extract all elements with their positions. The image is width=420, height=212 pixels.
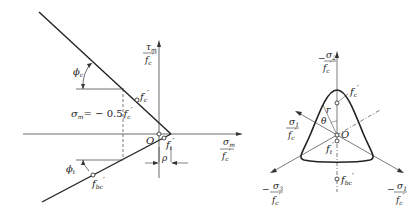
point-fc <box>335 101 339 105</box>
sigma1-neg-axis <box>297 112 337 135</box>
svg-text:fc′: fc′ <box>271 191 281 206</box>
svg-text:−: − <box>262 184 270 194</box>
ft-label: ft′ <box>325 140 334 155</box>
svg-text:−: − <box>318 53 326 63</box>
axis-arrow-icon <box>270 168 277 173</box>
sigma1-axis <box>337 135 402 172</box>
arc-arrow-icon <box>81 160 85 165</box>
meridian-diagram: τm fc′ σm fc′ ϕc ϕt fc′ σm= − 0.5fc′ O f… <box>23 12 242 202</box>
diagram-canvas: τm fc′ σm fc′ ϕc ϕt fc′ σm= − 0.5fc′ O f… <box>0 0 420 212</box>
fc-label: fc′ <box>139 88 149 103</box>
point-fbc <box>91 173 95 177</box>
y-axis-arrow-icon <box>157 40 161 47</box>
x-axis-arrow-icon <box>236 132 242 136</box>
sigma2-label: − σ2 fc′ <box>318 50 336 74</box>
sigma-eq-label: σm= − 0.5fc′ <box>71 105 133 120</box>
dim-arrow-icon <box>153 161 159 165</box>
origin-label: O <box>146 135 154 146</box>
rho-label: ρ <box>161 153 168 163</box>
point-fbc <box>335 177 339 181</box>
axis-arrow-icon <box>295 111 302 116</box>
theta-label: θ <box>321 116 327 126</box>
sigma1-right-label: − σ1 fc′ <box>387 181 407 206</box>
sigma1-left-label: σ1 fc′ <box>286 117 299 141</box>
fbc-label: fbc′ <box>340 171 354 186</box>
point-origin <box>335 133 339 137</box>
deviatoric-section-diagram: − σ2 fc′ σ1 fc′ − σ3 fc′ − σ1 fc′ fc′ r … <box>262 50 407 206</box>
svg-text:−: − <box>387 184 395 194</box>
phi-t-label: ϕt <box>66 163 76 175</box>
y-axis-label: τm fc′ <box>143 42 157 66</box>
point-origin <box>157 132 161 136</box>
axis-arrow-icon <box>397 168 404 173</box>
dim-arrow-icon <box>171 161 177 165</box>
ft-label: ft′ <box>165 136 174 151</box>
phi-c-label: ϕc <box>73 66 84 78</box>
fc-label: fc′ <box>349 83 359 98</box>
arc-arrow-icon <box>81 84 85 89</box>
origin-label: O <box>341 129 349 140</box>
svg-text:fc′: fc′ <box>395 191 405 206</box>
fbc-label: fbc′ <box>91 175 105 190</box>
phi-t-arc <box>83 160 89 171</box>
sigma3-label: − σ3 fc′ <box>262 181 283 206</box>
point-ft <box>335 139 339 143</box>
arc-arrow-icon <box>87 63 92 68</box>
x-axis-label: σm fc′ <box>220 137 235 162</box>
r-label: r <box>326 105 331 115</box>
point-fc <box>135 98 139 102</box>
